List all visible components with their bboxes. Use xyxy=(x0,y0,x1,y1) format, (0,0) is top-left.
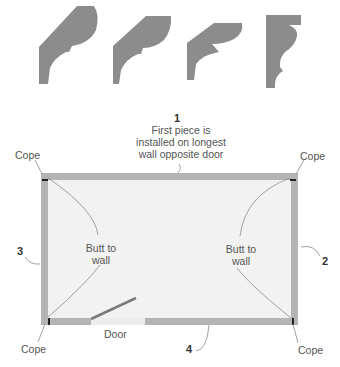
door-opening xyxy=(91,318,145,325)
cope-mark-bottom-right xyxy=(292,318,294,325)
wall-3-left xyxy=(41,173,48,325)
cope-mark-top-right xyxy=(290,179,296,181)
butt-label-left-line2: wall xyxy=(81,254,121,266)
crown-molding-profile-1 xyxy=(39,6,98,84)
wall-2-right xyxy=(291,173,298,325)
wall-4-bottom xyxy=(41,318,298,325)
cope-mark-top-left xyxy=(42,179,48,181)
molding-profiles xyxy=(39,6,301,88)
crown-molding-profile-3 xyxy=(187,23,242,80)
first-piece-note-line1: First piece is xyxy=(129,124,233,136)
door-label: Door xyxy=(104,328,127,340)
crown-molding-profile-2 xyxy=(113,16,171,84)
cope-label-bottom-right: Cope xyxy=(298,344,323,356)
wall-number-1: 1 xyxy=(174,112,180,124)
first-piece-note-line3: wall opposite door xyxy=(129,148,233,160)
butt-label-left-line1: Butt to xyxy=(81,242,121,254)
crown-molding-diagram xyxy=(0,0,340,367)
cope-label-top-left: Cope xyxy=(15,149,40,161)
cope-mark-bottom-left xyxy=(48,318,50,325)
cope-label-bottom-left: Cope xyxy=(21,343,46,355)
butt-label-right-line2: wall xyxy=(221,255,261,267)
wall-number-2: 2 xyxy=(322,255,328,267)
butt-label-right-line1: Butt to xyxy=(221,243,261,255)
wall-1-top xyxy=(41,173,297,180)
first-piece-note-line2: installed on longest xyxy=(129,136,233,148)
crown-molding-profile-4 xyxy=(266,15,301,88)
cope-label-top-right: Cope xyxy=(300,150,325,162)
wall-number-3: 3 xyxy=(17,245,23,257)
wall-number-4: 4 xyxy=(186,343,192,355)
